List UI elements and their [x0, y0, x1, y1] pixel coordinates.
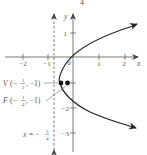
svg-text:, −1): , −1)	[26, 79, 41, 88]
x-tick-neg2: −2	[19, 60, 27, 68]
svg-text:(−: (−	[10, 79, 18, 88]
y-tick-neg2: −2	[62, 105, 70, 113]
x-tick-1: 1	[97, 60, 101, 68]
x-tick-2: 2	[122, 60, 126, 68]
svg-text:x: x	[22, 130, 27, 139]
y-tick-1: 1	[64, 30, 68, 38]
svg-text:2: 2	[22, 85, 25, 90]
vertex-label: V (− 1 2 , −1)	[3, 78, 58, 90]
directrix-label: x = − 3 4	[22, 129, 49, 141]
focus-label: F (− 1 4 , −1)	[2, 86, 66, 107]
svg-text:F: F	[2, 96, 8, 105]
svg-text:, −1): , −1)	[26, 96, 41, 105]
x-axis-label: x	[136, 59, 141, 68]
x-tick-neg1: −1	[43, 60, 51, 68]
svg-text:V: V	[3, 79, 9, 88]
vertex-point	[59, 81, 64, 86]
y-axis-label: y	[63, 12, 68, 21]
parabola-graph: 4 −2 −1 0 1 2 x y 1 −2 −3 V (− 1	[0, 0, 147, 155]
header-fragment: 4	[80, 0, 84, 7]
parabola-curve	[59, 25, 136, 128]
svg-text:4: 4	[46, 136, 49, 141]
svg-text:1: 1	[22, 95, 25, 100]
y-tick-neg3: −3	[62, 130, 70, 138]
svg-text:3: 3	[46, 129, 49, 134]
svg-text:4: 4	[22, 102, 25, 107]
svg-text:= −: = −	[29, 130, 39, 139]
svg-text:(−: (−	[10, 96, 18, 105]
focus-point	[65, 81, 70, 86]
svg-text:1: 1	[22, 78, 25, 83]
